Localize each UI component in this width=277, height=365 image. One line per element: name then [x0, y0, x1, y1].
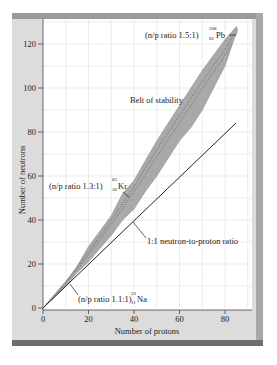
x-tick-labels: 0 20 40 60 80 [41, 314, 229, 324]
svg-text:20: 20 [84, 314, 93, 324]
svg-text:82: 82 [209, 36, 215, 41]
svg-text:(n/p ratio 1.1:1): (n/p ratio 1.1:1) [78, 294, 132, 304]
svg-text:20: 20 [28, 259, 37, 269]
svg-text:80: 80 [28, 127, 37, 137]
y-tick-marks [38, 44, 43, 308]
svg-text:40: 40 [130, 314, 139, 324]
y-axis-label: Number of neutrons [17, 146, 27, 214]
svg-text:0: 0 [32, 303, 36, 313]
svg-text:23: 23 [131, 291, 137, 296]
svg-text:Na: Na [137, 294, 147, 304]
svg-text:80: 80 [221, 314, 230, 324]
svg-text:(n/p ratio 1.3:1): (n/p ratio 1.3:1) [49, 181, 103, 191]
svg-text:Pb: Pb [216, 30, 225, 40]
svg-text:0: 0 [41, 314, 45, 324]
svg-text:36: 36 [112, 187, 118, 192]
svg-text:(n/p ratio 1.5:1): (n/p ratio 1.5:1) [145, 30, 199, 40]
svg-text:40: 40 [28, 215, 37, 225]
svg-text:60: 60 [175, 314, 184, 324]
svg-text:11: 11 [131, 300, 136, 305]
svg-text:1:1 neutron-to-proton ratio: 1:1 neutron-to-proton ratio [147, 236, 238, 246]
chart: 0 20 40 60 80 100 120 0 20 40 60 80 Numb… [0, 0, 277, 365]
svg-text:Kr: Kr [118, 181, 127, 191]
x-axis-label: Number of protons [115, 326, 180, 336]
svg-text:83: 83 [112, 177, 118, 182]
svg-text:60: 60 [28, 171, 37, 181]
belt-label: Belt of stability [130, 95, 184, 105]
svg-text:100: 100 [23, 83, 36, 93]
svg-text:120: 120 [23, 39, 36, 49]
